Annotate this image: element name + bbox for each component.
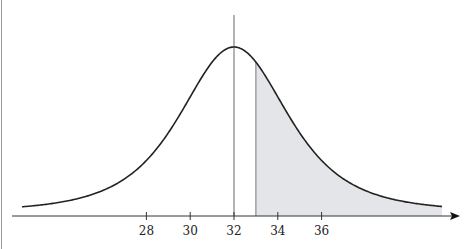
- distribution-curve: [22, 47, 442, 207]
- x-tick-label: 32: [226, 224, 241, 238]
- shaded-tail-region: [256, 62, 442, 216]
- x-tick-label: 30: [183, 224, 198, 238]
- x-tick-label: 34: [270, 224, 286, 238]
- x-tick-label: 36: [314, 224, 329, 238]
- distribution-chart: 2830323436: [0, 0, 469, 249]
- x-tick-label: 28: [139, 224, 154, 238]
